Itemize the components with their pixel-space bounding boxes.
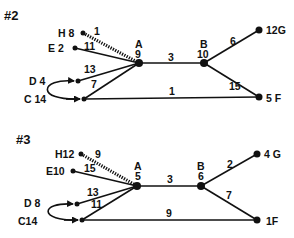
label-H: H12 — [55, 148, 74, 160]
label-D: D 8 — [24, 197, 41, 209]
label-E: E 2 — [48, 42, 64, 54]
node-F — [254, 217, 261, 224]
weight-A-B: 3 — [167, 173, 173, 185]
edge-D-A — [77, 186, 137, 204]
label-G: 12G — [266, 24, 286, 36]
weight-H-A: 9 — [95, 148, 101, 160]
curved-arrow-C-D — [48, 204, 78, 220]
node-B — [197, 182, 205, 190]
label-A-value: 9 — [135, 48, 141, 60]
node-E — [71, 169, 76, 174]
label-B-value: 6 — [198, 170, 204, 182]
label-F: 1F — [266, 215, 279, 227]
label-C: C14 — [18, 215, 37, 227]
node-G — [256, 27, 263, 34]
weight-E-A: 15 — [84, 162, 96, 174]
weight-H-A: 1 — [94, 25, 100, 37]
node-C — [82, 97, 87, 102]
edge-C-F — [84, 97, 259, 99]
node-A — [135, 59, 143, 67]
label-A-value: 5 — [135, 170, 141, 182]
weight-B-G: 2 — [227, 158, 233, 170]
node-F — [256, 94, 263, 101]
node-G — [254, 151, 261, 158]
edge-E-A — [73, 171, 137, 186]
weight-C-A: 11 — [91, 198, 102, 210]
diagram-3-title: #3 — [16, 132, 30, 147]
label-E: E10 — [46, 165, 65, 177]
node-E — [73, 46, 78, 51]
curved-arrow-C-D — [47, 81, 80, 99]
weight-D-A: 13 — [84, 63, 96, 75]
label-D: D 4 — [29, 75, 46, 87]
label-H: H 8 — [58, 27, 75, 39]
label-G: 4 G — [264, 148, 281, 160]
weight-C-F: 9 — [166, 207, 172, 219]
node-C — [80, 218, 85, 223]
weight-B-F: 15 — [229, 80, 241, 92]
weight-D-A: 13 — [87, 186, 99, 198]
label-F: 5 F — [266, 92, 282, 104]
node-H — [81, 31, 86, 36]
label-C: C 14 — [24, 93, 46, 105]
diagram-3: #3 H12 E10 D 8 C14 A 5 B 6 4 G 1F 9 15 — [16, 132, 281, 227]
graph-diagrams: #2 H 8 E 2 D 4 C 14 A 9 B 10 12G 5 F 1 — [0, 0, 294, 238]
node-A — [133, 182, 141, 190]
node-H — [79, 152, 84, 157]
weight-A-B: 3 — [168, 51, 174, 63]
weight-C-F: 1 — [169, 85, 175, 97]
node-D — [75, 202, 80, 207]
weight-C-A: 7 — [91, 78, 97, 90]
weight-B-G: 6 — [230, 35, 236, 47]
weight-E-A: 11 — [84, 40, 95, 52]
node-D — [76, 79, 81, 84]
weight-B-F: 7 — [226, 189, 232, 201]
diagram-2: #2 H 8 E 2 D 4 C 14 A 9 B 10 12G 5 F 1 — [4, 8, 286, 105]
node-B — [200, 59, 208, 67]
label-B-value: 10 — [197, 48, 209, 60]
diagram-2-title: #2 — [4, 8, 18, 23]
